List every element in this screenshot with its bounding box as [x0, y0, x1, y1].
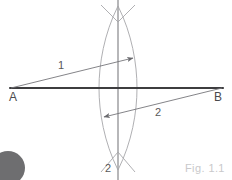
arc-tail-top-left — [101, 5, 118, 22]
construction-drawing — [0, 0, 232, 180]
ray-one-label: 1 — [58, 60, 64, 71]
arc-tail-top-right — [118, 5, 135, 22]
corner-blob — [0, 151, 25, 180]
ray-two-label: 2 — [155, 107, 161, 118]
ray-two — [104, 88, 222, 117]
geometry-figure: A B 1 2 2 Fig. 1.1 — [0, 0, 232, 180]
figure-caption: Fig. 1.1 — [185, 163, 225, 174]
perpendicular-label: 2 — [105, 163, 111, 174]
arc-tail-bottom-right — [118, 152, 135, 172]
point-label-b: B — [214, 91, 222, 103]
ray-one — [11, 58, 133, 88]
point-label-a: A — [9, 91, 17, 103]
